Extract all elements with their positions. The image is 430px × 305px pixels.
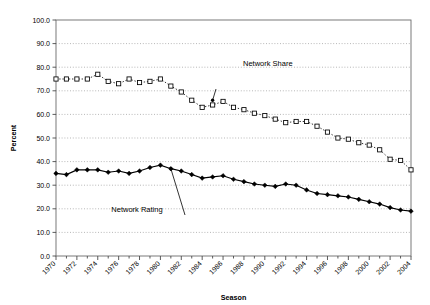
annotation-label-network-rating: Network Rating <box>111 205 162 214</box>
data-point-network-share <box>409 168 413 172</box>
data-point-network-share <box>200 105 204 109</box>
data-point-network-share <box>252 111 256 115</box>
y-axis-tick-label: 20.0 <box>36 205 50 212</box>
y-axis-tick-label: 90.0 <box>36 40 50 47</box>
chart-container: 0.010.020.030.040.050.060.070.080.090.01… <box>0 0 430 305</box>
data-point-network-share <box>367 143 371 147</box>
data-point-network-share <box>231 105 235 109</box>
data-point-network-share <box>346 137 350 141</box>
y-axis-tick-label: 100.0 <box>32 17 50 24</box>
y-axis-tick-label: 50.0 <box>36 135 50 142</box>
data-point-network-share <box>315 124 319 128</box>
y-axis-tick-label: 40.0 <box>36 158 50 165</box>
line-chart: 0.010.020.030.040.050.060.070.080.090.01… <box>0 0 430 305</box>
annotation-arrowhead <box>211 99 214 102</box>
data-point-network-share <box>357 141 361 145</box>
data-point-network-share <box>64 77 68 81</box>
data-point-network-share <box>85 77 89 81</box>
data-point-network-share <box>304 119 308 123</box>
data-point-network-share <box>388 157 392 161</box>
data-point-network-share <box>137 80 141 84</box>
y-axis-title: Percent <box>9 124 18 151</box>
data-point-network-share <box>242 108 246 112</box>
data-point-network-share <box>75 77 79 81</box>
y-axis-tick-label: 30.0 <box>36 182 50 189</box>
data-point-network-share <box>294 119 298 123</box>
data-point-network-share <box>211 103 215 107</box>
y-axis-tick-label: 60.0 <box>36 111 50 118</box>
data-point-network-share <box>179 90 183 94</box>
data-point-network-share <box>117 82 121 86</box>
data-point-network-share <box>54 77 58 81</box>
data-point-network-share <box>273 117 277 121</box>
data-point-network-share <box>378 148 382 152</box>
annotation-label-network-share: Network Share <box>243 59 293 68</box>
data-point-network-share <box>190 98 194 102</box>
data-point-network-share <box>398 158 402 162</box>
data-point-network-share <box>96 72 100 76</box>
x-axis-title: Season <box>221 293 247 302</box>
y-axis-tick-label: 0.0 <box>40 253 50 260</box>
data-point-network-share <box>336 136 340 140</box>
y-axis-tick-label: 70.0 <box>36 87 50 94</box>
data-point-network-share <box>127 77 131 81</box>
data-point-network-share <box>158 77 162 81</box>
data-point-network-share <box>325 130 329 134</box>
y-axis-tick-label: 80.0 <box>36 64 50 71</box>
y-axis-tick-label: 10.0 <box>36 229 50 236</box>
data-point-network-share <box>148 79 152 83</box>
data-point-network-share <box>284 121 288 125</box>
data-point-network-share <box>221 99 225 103</box>
data-point-network-share <box>106 79 110 83</box>
data-point-network-share <box>263 113 267 117</box>
data-point-network-share <box>169 84 173 88</box>
annotation-arrowhead <box>169 167 172 170</box>
